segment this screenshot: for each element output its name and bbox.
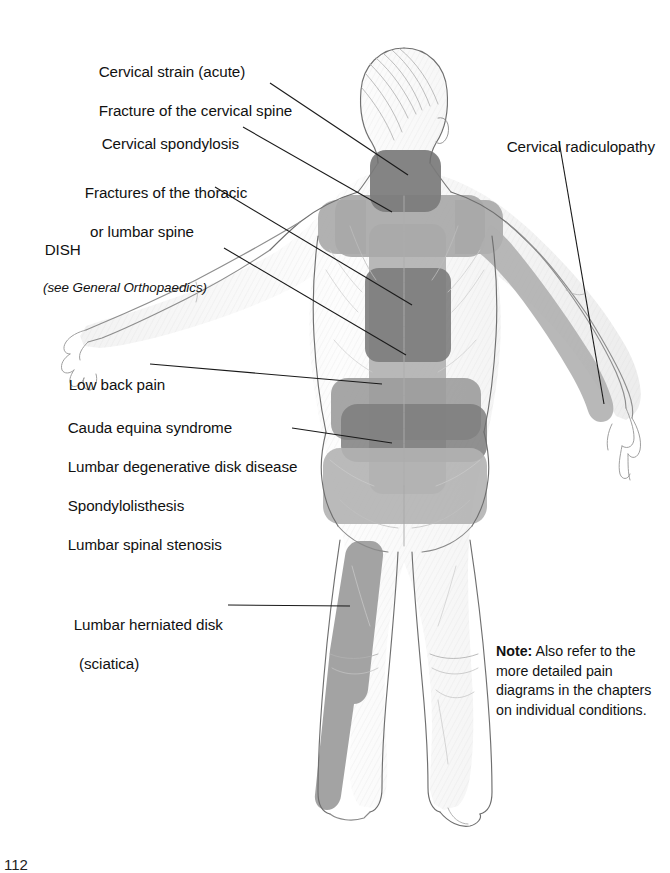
label-herniated-disk: Lumbar herniated disk (sciatica) [57, 595, 223, 712]
label-herniated-disk-line2: (sciatica) [57, 654, 223, 674]
label-low-back-pain-text: Low back pain [69, 376, 165, 393]
label-lumbar-group: Cauda equina syndrome Lumbar degenerativ… [51, 398, 297, 574]
label-dish-main: DISH [45, 241, 81, 258]
label-cervical-spondylosis-text: Cervical spondylosis [102, 135, 239, 152]
label-herniated-disk-line1: Lumbar herniated disk [74, 616, 223, 633]
label-lumbar-group-line3: Spondylolisthesis [68, 497, 185, 514]
label-cervical-radiculopathy-text: Cervical radiculopathy [507, 138, 655, 155]
label-cervical-strain-line1: Cervical strain (acute) [99, 63, 246, 80]
label-dish-subtitle: (see General Orthopaedics) [28, 279, 207, 297]
label-lumbar-group-line1: Cauda equina syndrome [68, 419, 232, 436]
label-cervical-radiculopathy: Cervical radiculopathy [490, 117, 655, 176]
label-lumbar-group-line4: Lumbar spinal stenosis [68, 536, 222, 553]
label-thoracic-lumbar-line1: Fractures of the thoracic [85, 184, 248, 201]
pain-region-shoulder-extension-left [318, 200, 366, 254]
pain-region-buttock [323, 448, 487, 524]
pain-region-mid-thoracic [365, 268, 451, 362]
label-lumbar-group-line2: Lumbar degenerative disk disease [68, 458, 298, 475]
label-dish: DISH (see General Orthopaedics) [28, 220, 207, 336]
note-bold-prefix: Note: [496, 643, 532, 659]
page-number: 112 [4, 856, 28, 873]
note-block: Note: Also refer to the more detailed pa… [496, 642, 661, 720]
